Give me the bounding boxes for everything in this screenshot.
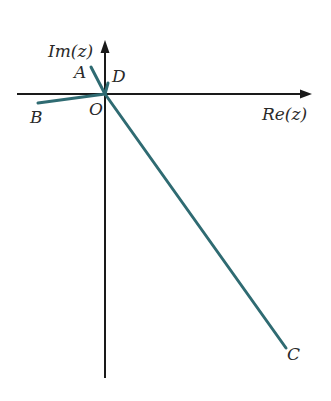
origin-label: O [89, 99, 103, 119]
complex-plane-diagram: Im(z) Re(z) O A B C D [0, 0, 331, 401]
imaginary-axis-label: Im(z) [47, 41, 93, 61]
point-label-D: D [111, 66, 126, 86]
real-axis-arrow-icon [300, 90, 312, 99]
point-label-C: C [287, 344, 300, 364]
real-axis-label: Re(z) [261, 104, 307, 124]
point-label-A: A [72, 62, 86, 82]
segment-OC [105, 94, 286, 348]
imaginary-axis-arrow-icon [101, 40, 110, 53]
segment-OA [91, 67, 105, 94]
point-label-B: B [29, 107, 43, 127]
